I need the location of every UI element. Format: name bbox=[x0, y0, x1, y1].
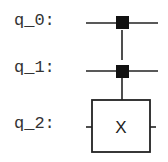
control-dot-q0 bbox=[116, 16, 129, 29]
x-gate-label: X bbox=[115, 118, 126, 137]
control-dot-q1 bbox=[116, 65, 129, 78]
circuit-diagram: X bbox=[0, 0, 168, 162]
